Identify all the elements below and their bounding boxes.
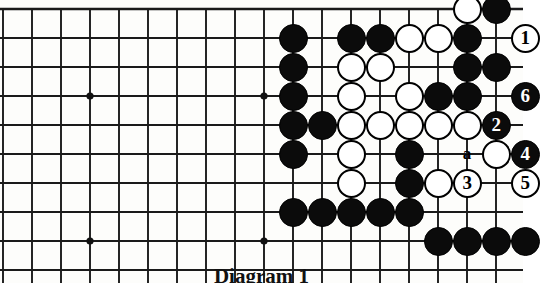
move-stone-6[interactable]: 6: [511, 82, 540, 111]
black-stone[interactable]: [453, 227, 482, 256]
white-stone[interactable]: [482, 140, 511, 169]
move-number: 5: [521, 173, 530, 192]
point-marker-a[interactable]: a: [453, 140, 482, 169]
black-stone[interactable]: [424, 82, 453, 111]
black-stone[interactable]: [308, 198, 337, 227]
white-stone[interactable]: [395, 82, 424, 111]
black-stone[interactable]: [395, 198, 424, 227]
white-stone[interactable]: [366, 111, 395, 140]
black-stone[interactable]: [395, 140, 424, 169]
black-stone[interactable]: [308, 111, 337, 140]
move-stone-2[interactable]: 2: [482, 111, 511, 140]
white-stone[interactable]: [337, 169, 366, 198]
white-stone[interactable]: [424, 24, 453, 53]
white-stone[interactable]: [366, 53, 395, 82]
move-stone-1[interactable]: 1: [511, 24, 540, 53]
move-number: 1: [521, 28, 530, 47]
white-stone[interactable]: [453, 111, 482, 140]
star-point: [260, 237, 267, 244]
black-stone[interactable]: [279, 198, 308, 227]
move-stone-3[interactable]: 3: [453, 169, 482, 198]
star-point: [260, 92, 267, 99]
black-stone[interactable]: [453, 53, 482, 82]
black-stone[interactable]: [279, 53, 308, 82]
white-stone[interactable]: [337, 140, 366, 169]
star-point: [86, 92, 93, 99]
black-stone[interactable]: [482, 53, 511, 82]
move-number: 2: [492, 115, 501, 134]
black-stone[interactable]: [453, 82, 482, 111]
black-stone[interactable]: [337, 24, 366, 53]
black-stone[interactable]: [424, 227, 453, 256]
white-stone[interactable]: [424, 111, 453, 140]
black-stone[interactable]: [337, 198, 366, 227]
diagram-caption: Diagram 1: [0, 264, 523, 283]
move-stone-4[interactable]: 4: [511, 140, 540, 169]
black-stone[interactable]: [366, 198, 395, 227]
black-stone[interactable]: [279, 82, 308, 111]
star-point: [86, 237, 93, 244]
black-stone[interactable]: [395, 169, 424, 198]
white-stone[interactable]: [453, 0, 482, 24]
white-stone[interactable]: [424, 169, 453, 198]
move-number: 6: [521, 86, 530, 105]
black-stone[interactable]: [366, 24, 395, 53]
black-stone[interactable]: [453, 24, 482, 53]
white-stone[interactable]: [337, 82, 366, 111]
move-number: 3: [463, 173, 472, 192]
black-stone[interactable]: [279, 111, 308, 140]
move-number: 4: [521, 144, 530, 163]
white-stone[interactable]: [395, 111, 424, 140]
white-stone[interactable]: [337, 53, 366, 82]
white-stone[interactable]: [395, 24, 424, 53]
white-stone[interactable]: [337, 111, 366, 140]
black-stone[interactable]: [482, 227, 511, 256]
black-stone[interactable]: [482, 0, 511, 24]
black-stone[interactable]: [511, 227, 540, 256]
black-stone[interactable]: [279, 140, 308, 169]
move-stone-5[interactable]: 5: [511, 169, 540, 198]
black-stone[interactable]: [279, 24, 308, 53]
